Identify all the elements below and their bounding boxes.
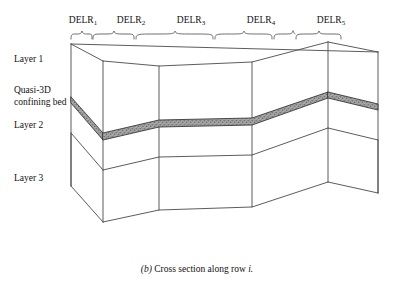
column-width-braces [71, 31, 341, 39]
block-diagram [0, 0, 394, 288]
block-bottom-edges [71, 182, 378, 222]
quasi-3d-confining-bed [71, 92, 378, 140]
layer-1-top-surface [71, 42, 378, 66]
figure-caption-suffix: i. [248, 264, 253, 274]
cross-section-figure: DELR1 DELR2 DELR3 DELR4 DELR5 Layer 1 Qu… [0, 0, 394, 288]
figure-caption: (b) Cross section along row i. [0, 264, 394, 274]
figure-caption-prefix: (b) [141, 264, 152, 274]
figure-caption-text: Cross section along row [154, 264, 246, 274]
